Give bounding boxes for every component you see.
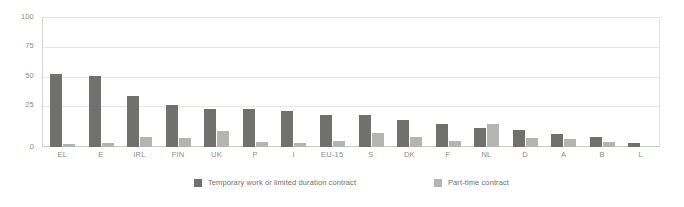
bar-parttime: [564, 139, 576, 147]
bar-parttime: [410, 137, 422, 147]
y-tick-label: 50: [25, 71, 34, 80]
x-tick-label: B: [583, 150, 622, 159]
bar-parttime: [372, 133, 384, 147]
bar-group: [589, 17, 622, 147]
legend-item-parttime: Part-time contract: [434, 178, 509, 187]
legend-label: Part-time contract: [448, 178, 509, 187]
bar-group: [203, 17, 236, 147]
bar-chart: 100 75 50 25 0 ELEIRLFINUKPIEU-15SDKFNLD…: [0, 0, 684, 207]
bar-parttime: [526, 138, 538, 147]
x-tick-label: FIN: [159, 150, 198, 159]
x-tick-label: I: [274, 150, 313, 159]
bar-parttime: [603, 142, 615, 147]
bar-parttime: [256, 142, 268, 147]
bar-group: [165, 17, 198, 147]
bar-group: [319, 17, 352, 147]
bars-layer: [43, 17, 660, 147]
bar-parttime: [140, 137, 152, 147]
bar-temporary: [50, 74, 62, 147]
y-axis: 100 75 50 25 0: [0, 0, 38, 207]
bar-group: [280, 17, 313, 147]
bar-group: [88, 17, 121, 147]
bar-parttime: [333, 141, 345, 148]
bar-parttime: [63, 144, 75, 147]
bar-temporary: [436, 124, 448, 147]
x-tick-label: S: [352, 150, 391, 159]
y-tick-label: 25: [25, 100, 34, 109]
bar-parttime: [179, 138, 191, 147]
bar-temporary: [320, 115, 332, 148]
bar-group: [435, 17, 468, 147]
bar-group: [627, 17, 660, 147]
bar-parttime: [294, 143, 306, 147]
legend-item-temporary: Temporary work or limited duration contr…: [194, 178, 356, 187]
x-tick-label: P: [236, 150, 275, 159]
bar-parttime: [449, 141, 461, 148]
bar-temporary: [127, 96, 139, 147]
bar-temporary: [590, 137, 602, 147]
x-tick-label: EL: [43, 150, 82, 159]
bar-temporary: [166, 105, 178, 147]
bar-temporary: [281, 111, 293, 147]
bar-group: [358, 17, 391, 147]
bar-group: [242, 17, 275, 147]
legend-swatch-icon: [194, 179, 202, 187]
x-axis: ELEIRLFINUKPIEU-15SDKFNLDABL: [43, 150, 660, 166]
bar-group: [473, 17, 506, 147]
x-tick-label: DK: [390, 150, 429, 159]
y-tick-label: 100: [21, 12, 34, 21]
x-tick-label: A: [544, 150, 583, 159]
y-tick-label: 0: [30, 142, 34, 151]
bar-temporary: [551, 134, 563, 147]
bar-parttime: [487, 124, 499, 147]
bar-group: [512, 17, 545, 147]
x-tick-label: EU-15: [313, 150, 352, 159]
legend: Temporary work or limited duration contr…: [0, 178, 684, 198]
bar-parttime: [217, 131, 229, 147]
bar-group: [49, 17, 82, 147]
x-tick-label: F: [429, 150, 468, 159]
bar-temporary: [89, 76, 101, 148]
y-tick-label: 75: [25, 41, 34, 50]
bar-group: [396, 17, 429, 147]
legend-swatch-icon: [434, 179, 442, 187]
bar-temporary: [397, 120, 409, 147]
bar-group: [126, 17, 159, 147]
x-tick-label: NL: [467, 150, 506, 159]
bar-temporary: [513, 130, 525, 147]
bar-temporary: [243, 109, 255, 147]
bar-temporary: [628, 143, 640, 147]
bar-temporary: [474, 128, 486, 148]
x-tick-label: E: [82, 150, 121, 159]
x-tick-label: UK: [197, 150, 236, 159]
x-tick-label: L: [621, 150, 660, 159]
bar-group: [550, 17, 583, 147]
bar-parttime: [102, 143, 114, 147]
bar-temporary: [204, 109, 216, 147]
legend-label: Temporary work or limited duration contr…: [208, 178, 356, 187]
bar-temporary: [359, 115, 371, 148]
x-tick-label: D: [506, 150, 545, 159]
x-tick-label: IRL: [120, 150, 159, 159]
